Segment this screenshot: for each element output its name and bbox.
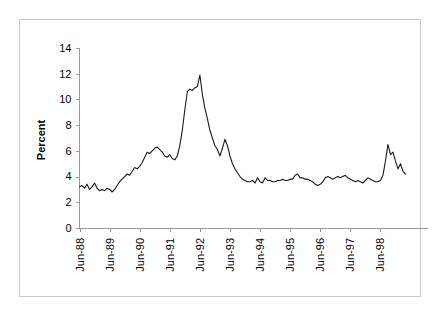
y-tick-label: 10 bbox=[59, 93, 71, 105]
y-tick-label: 2 bbox=[65, 196, 71, 208]
y-tick-label: 4 bbox=[65, 170, 71, 182]
x-axis: Jun-88Jun-89Jun-90Jun-91Jun-92Jun-93Jun-… bbox=[74, 228, 429, 272]
x-tick-label: Jun-97 bbox=[344, 238, 356, 272]
y-axis: 02468101214 bbox=[59, 42, 79, 234]
y-tick-label: 0 bbox=[65, 222, 71, 234]
y-tick-label: 14 bbox=[59, 42, 71, 54]
y-tick-label: 12 bbox=[59, 68, 71, 80]
x-tick-label: Jun-93 bbox=[224, 238, 236, 272]
y-tick-label: 8 bbox=[65, 119, 71, 131]
y-tick-group: 02468101214 bbox=[59, 42, 79, 234]
y-tick-label: 6 bbox=[65, 145, 71, 157]
x-tick-label: Jun-92 bbox=[194, 238, 206, 272]
line-chart: 02468101214 Jun-88Jun-89Jun-90Jun-91Jun-… bbox=[0, 0, 444, 319]
y-axis-title: Percent bbox=[35, 119, 47, 160]
x-tick-label: Jun-89 bbox=[104, 238, 116, 272]
x-tick-label: Jun-88 bbox=[74, 238, 86, 272]
x-tick-label: Jun-98 bbox=[374, 238, 386, 272]
x-tick-group: Jun-88Jun-89Jun-90Jun-91Jun-92Jun-93Jun-… bbox=[74, 228, 387, 272]
data-series-group bbox=[80, 75, 406, 192]
x-tick-label: Jun-94 bbox=[254, 238, 266, 272]
chart-figure: 02468101214 Jun-88Jun-89Jun-90Jun-91Jun-… bbox=[0, 0, 444, 319]
x-tick-label: Jun-90 bbox=[134, 238, 146, 272]
x-tick-label: Jun-95 bbox=[284, 238, 296, 272]
x-tick-label: Jun-96 bbox=[314, 238, 326, 272]
x-tick-label: Jun-91 bbox=[164, 238, 176, 272]
series-line-percent bbox=[80, 75, 406, 192]
